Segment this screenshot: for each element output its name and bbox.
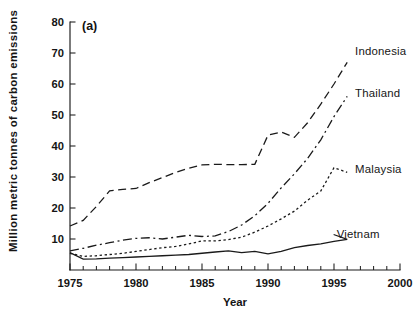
x-tick-label: 1985	[190, 277, 215, 289]
series-label-indonesia: Indonesia	[355, 45, 407, 57]
chart-svg: Million metric tonnes of carbon emission…	[0, 0, 417, 328]
series-label-group: IndonesiaThailandMalaysiaVietnam	[334, 45, 407, 240]
y-axis-title: Million metric tonnes of carbon emission…	[7, 10, 19, 252]
x-ticks-major	[70, 264, 400, 271]
y-tick-label: 80	[52, 16, 64, 28]
y-axis-title-group: Million metric tonnes of carbon emission…	[7, 10, 19, 252]
y-tick-label: 20	[52, 202, 64, 214]
x-tick-label: 1990	[256, 277, 281, 289]
series-group	[70, 62, 347, 259]
y-tick-labels: 1020304050607080	[52, 16, 64, 245]
y-tick-label: 70	[52, 47, 64, 59]
series-label-thailand: Thailand	[355, 87, 400, 99]
y-ticks	[70, 22, 76, 239]
x-tick-label: 1975	[58, 277, 83, 289]
y-tick-label: 40	[52, 140, 64, 152]
x-tick-label: 2000	[388, 277, 413, 289]
y-tick-label: 60	[52, 78, 64, 90]
x-tick-label: 1995	[322, 277, 347, 289]
x-tick-labels: 197519801985199019952000	[58, 277, 413, 289]
carbon-emissions-chart: Million metric tonnes of carbon emission…	[0, 0, 417, 328]
series-line-malaysia	[70, 168, 347, 257]
panel-label: (a)	[82, 19, 97, 33]
x-tick-label: 1980	[124, 277, 149, 289]
series-line-thailand	[70, 96, 347, 250]
series-label-malaysia: Malaysia	[355, 163, 402, 175]
y-tick-label: 50	[52, 109, 64, 121]
y-tick-label: 30	[52, 171, 64, 183]
x-ticks-minor	[83, 266, 387, 270]
y-tick-label: 10	[52, 233, 64, 245]
x-axis-title: Year	[223, 296, 248, 308]
